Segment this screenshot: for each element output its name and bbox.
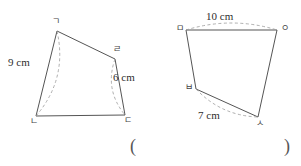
measure-label: 9 cm (8, 57, 30, 68)
quadrilateral-gndr (36, 31, 125, 116)
measure-label: 7 cm (198, 110, 220, 121)
measure-label: 10 cm (206, 11, 233, 22)
vertex-label: ㄹ (113, 45, 121, 54)
answer-paren-left: ( (130, 136, 136, 157)
vertex-label: ㅂ (185, 83, 193, 92)
quadrilateral-mbso (186, 30, 277, 117)
vertex-label: ㅁ (176, 24, 184, 33)
vertex-label: ㄱ (52, 17, 60, 26)
vertex-label: ㅇ (281, 24, 289, 33)
figure-page: 9 cm6 cmㄱㄹㄷㄴ10 cm7 cmㅁㅇㅅㅂ ( ) (0, 0, 301, 166)
vertex-label: ㄴ (30, 117, 38, 126)
measure-label: 6 cm (113, 72, 135, 83)
vertex-label: ㅅ (256, 119, 264, 128)
vertex-label: ㄷ (124, 116, 132, 125)
measure-arc (111, 59, 125, 115)
answer-blank[interactable]: ( ) (130, 136, 290, 162)
measure-arc (186, 23, 277, 30)
answer-paren-right: ) (284, 136, 290, 157)
